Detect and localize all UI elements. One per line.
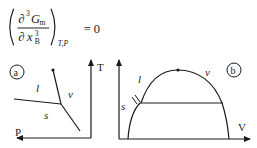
fusion-curve <box>61 104 80 131</box>
critical-point <box>176 68 179 71</box>
panel-a-liquid-label: l <box>36 82 39 94</box>
panel-a-vapor-label: v <box>68 88 73 100</box>
panel-b-solid-label: s <box>121 100 125 112</box>
panel-a-t-label: T <box>97 61 104 73</box>
vaporization-curve <box>53 70 61 104</box>
solid-boundary <box>128 103 140 139</box>
panel-a-pt-diagram: a l v s P T <box>10 60 104 138</box>
panel-a-badge-label: a <box>14 67 19 78</box>
panel-b-liquid-label: l <box>138 73 141 85</box>
solid-liquid-hatch-2 <box>135 95 140 102</box>
critical-point <box>51 68 54 71</box>
panel-b-v-label: V <box>238 121 246 133</box>
panel-b-vapor-label: v <box>205 66 210 78</box>
panel-b-badge-label: b <box>231 65 236 76</box>
panel-b-tv-diagram: l v s b V <box>119 60 250 139</box>
solid-liquid-hatch-1 <box>132 97 137 104</box>
phase-diagrams: a l v s P T l v s b V <box>0 0 257 148</box>
liquid-vapor-dome <box>141 70 229 139</box>
sublimation-curve <box>14 99 61 104</box>
panel-a-solid-label: s <box>44 109 48 121</box>
panel-a-p-label: P <box>15 126 21 138</box>
